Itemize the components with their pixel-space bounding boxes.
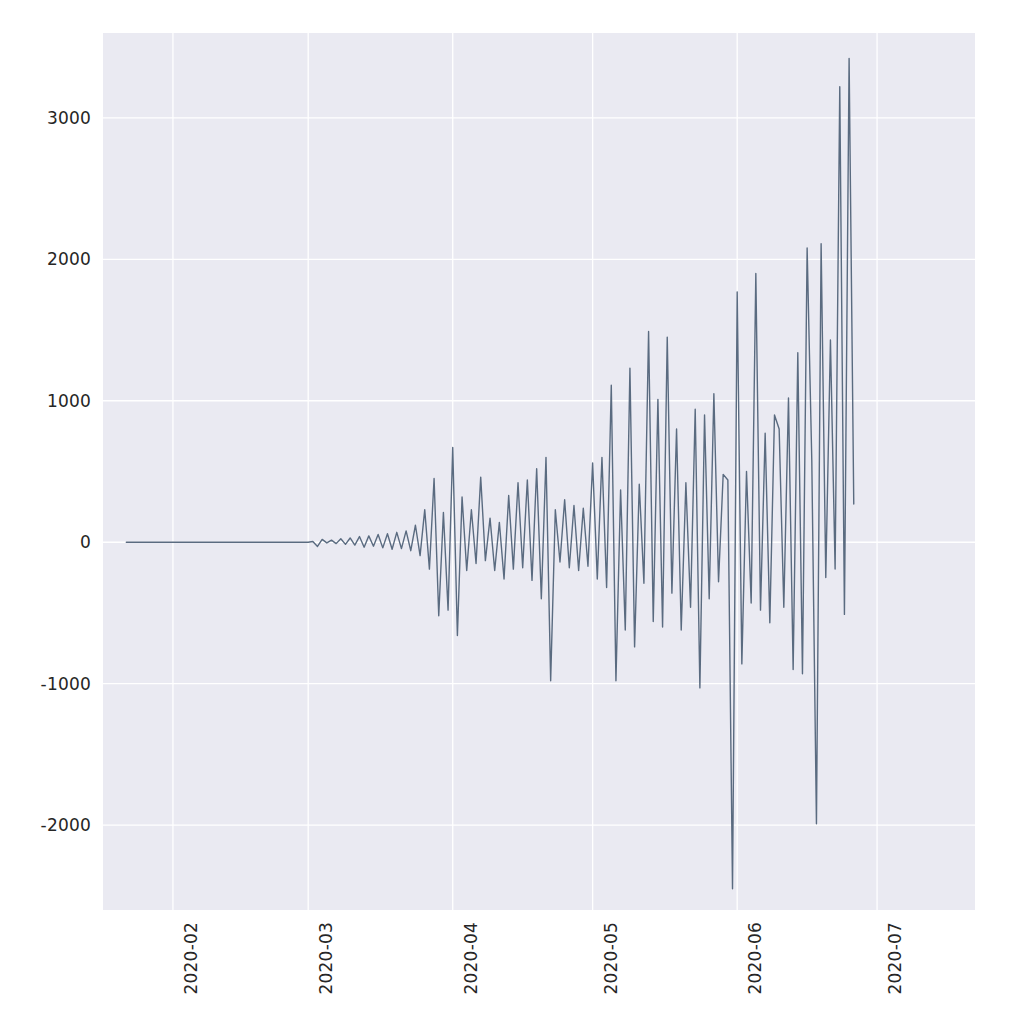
x-tick-label: 2020-04 [461,922,481,994]
x-tick-label: 2020-02 [181,922,201,994]
x-tick-label: 2020-07 [885,922,905,994]
x-tick-label: 2020-05 [601,922,621,994]
x-tick-label: 2020-03 [316,922,336,994]
x-tick-label: 2020-06 [745,922,765,994]
x-axis-tick-labels: 2020-022020-032020-042020-052020-062020-… [0,0,1009,1028]
chart-figure: -2000-10000100020003000 2020-022020-0320… [0,0,1009,1028]
